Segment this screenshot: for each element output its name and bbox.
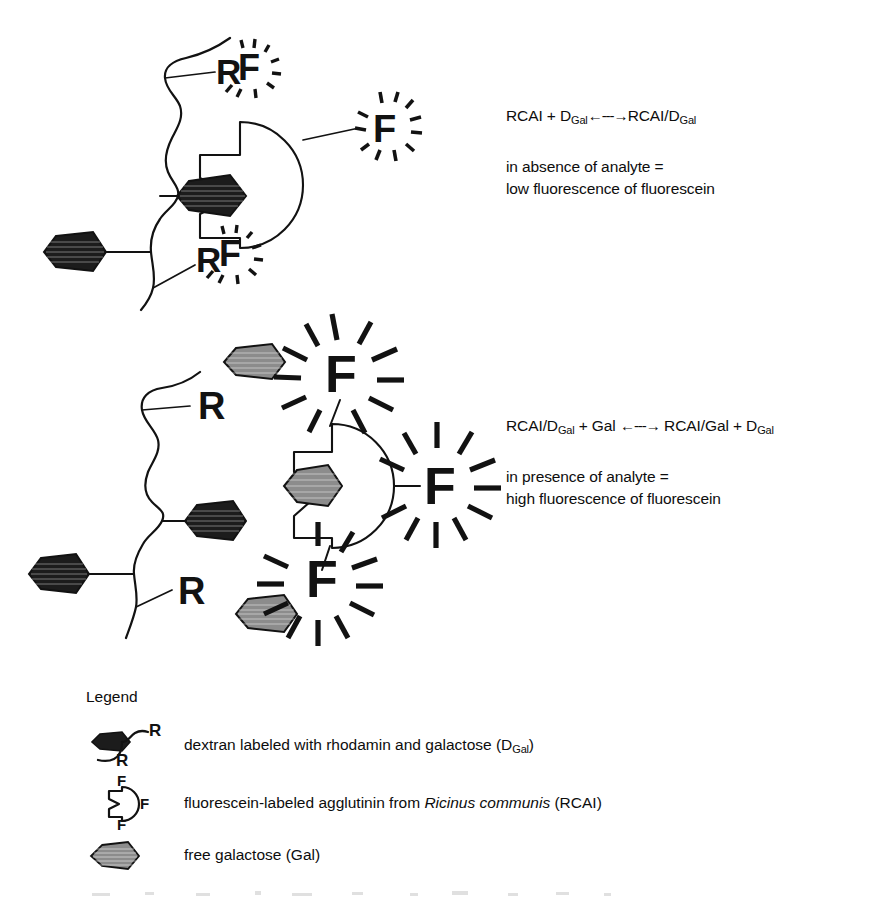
rhodamine-fluorescein-pair-upper: R F xyxy=(216,39,281,98)
dextran-galactose-hexagon-free-top xyxy=(44,232,106,271)
scan-artifact-speckles xyxy=(0,888,883,902)
legend-agglutinin-label-F-right: F xyxy=(140,795,149,812)
bottom-panel-description-line2: high fluorescence of fluorescein xyxy=(506,488,774,510)
figure-canvas: R F R F xyxy=(0,0,883,908)
free-galactose-hexagon-top-bottom xyxy=(224,344,285,379)
dextran-galactose-hexagon-docked-top xyxy=(177,175,246,216)
dextran-galactose-hexagon-left-bottom xyxy=(29,554,89,593)
bottom-panel-equation: RCAI/DGal + Gal ←---→ RCAI/Gal + DGal xyxy=(506,418,774,434)
label-F-bright-right: F xyxy=(424,457,456,515)
label-F-right: F xyxy=(373,108,396,150)
fluorescein-bright-right: F xyxy=(380,422,501,548)
legend-item-free-galactose: free galactose (Gal) xyxy=(86,836,786,878)
legend-agglutinin-text: fluorescein-labeled agglutinin from Rici… xyxy=(184,794,602,812)
rhodamine-dextran-icon: R R xyxy=(86,720,182,766)
free-galactose-hexagon-docked xyxy=(284,465,342,506)
top-panel-description-line2: low fluorescence of fluorescein xyxy=(506,178,715,200)
top-panel-caption: RCAI + DGal←---→RCAI/DGal in absence of … xyxy=(506,108,715,200)
equilibrium-arrow-bottom: ←---→ xyxy=(620,417,660,434)
label-F-bright-top: F xyxy=(325,345,357,403)
label-F-bright-bottom: F xyxy=(306,550,338,608)
top-panel-diagram: R F R F xyxy=(0,0,470,320)
dextran-galactose-hexagon-mid-bottom xyxy=(185,501,246,540)
legend-free-galactose-text: free galactose (Gal) xyxy=(184,846,320,864)
fluorescein-free-top: F xyxy=(303,92,422,161)
label-F-lower: F xyxy=(219,233,241,274)
fluorescein-bright-top: F xyxy=(274,314,404,433)
label-R-upper-bottom: R xyxy=(198,385,225,427)
rhodamine-fluorescein-pair-lower: R F xyxy=(196,225,263,284)
bottom-panel-caption: RCAI/DGal + Gal ←---→ RCAI/Gal + DGal in… xyxy=(506,418,774,510)
top-panel-equation: RCAI + DGal←---→RCAI/DGal xyxy=(506,108,715,124)
legend: Legend R R dextran labeled with rhodamin… xyxy=(86,688,786,878)
legend-dextran-label-R-bottom: R xyxy=(116,751,128,770)
legend-agglutinin-label-F-top: F xyxy=(117,772,126,789)
legend-item-agglutinin: F F F fluorescein-labeled agglutinin fro… xyxy=(86,776,786,830)
free-galactose-icon xyxy=(86,836,182,882)
top-panel-description-line1: in absence of analyte = xyxy=(506,156,715,178)
label-R-lower: R xyxy=(196,240,221,279)
bottom-panel-diagram: R R xyxy=(0,322,470,662)
legend-dextran-text: dextran labeled with rhodamin and galact… xyxy=(184,736,534,754)
legend-title: Legend xyxy=(86,688,786,706)
bottom-panel-description-line1: in presence of analyte = xyxy=(506,466,774,488)
legend-agglutinin-label-F-bottom: F xyxy=(117,816,126,833)
label-F-upper: F xyxy=(238,47,260,88)
equilibrium-arrow-top: ←---→ xyxy=(588,107,628,124)
legend-item-dextran: R R dextran labeled with rhodamin and ga… xyxy=(86,720,786,772)
legend-dextran-label-R-top: R xyxy=(149,721,161,740)
fluorescein-agglutinin-icon: F F F xyxy=(86,776,182,822)
label-R-lower-bottom: R xyxy=(178,570,205,612)
